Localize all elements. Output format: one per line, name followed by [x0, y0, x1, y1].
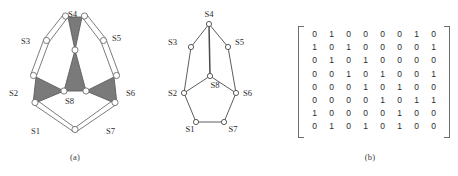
edge-b-s5-s6: [228, 47, 236, 93]
graph-b-svg: S4 S3 S5 S8 S2 S6 S1 S7: [150, 0, 290, 150]
label-b-s1: S1: [185, 124, 194, 134]
edge-b-s4-s8: [209, 24, 210, 76]
matrix-cell: 0: [323, 41, 340, 54]
matrix-cell: 0: [340, 81, 357, 94]
matrix-cell: 0: [374, 120, 391, 133]
matrix-cell: 0: [357, 94, 374, 107]
matrix-cell: 1: [425, 68, 442, 81]
edge-band-s4-s8-upper: [68, 17, 82, 50]
matrix-cell: 1: [374, 94, 391, 107]
label-a-s3: S3: [21, 36, 30, 46]
edge-b-s3-s4: [191, 24, 209, 47]
matrix-cell: 0: [391, 68, 408, 81]
node-a-s8-right: [83, 88, 89, 94]
label-b-s6: S6: [243, 88, 253, 98]
label-b-s3: S3: [168, 37, 177, 47]
graph-b-nodes: [181, 21, 238, 124]
matrix-cell: 0: [306, 54, 323, 67]
matrix-cell: 1: [340, 41, 357, 54]
matrix-cell: 0: [357, 68, 374, 81]
matrix-cell: 0: [357, 28, 374, 41]
matrix-row: 10000100: [306, 107, 442, 120]
label-b-s2: S2: [168, 88, 177, 98]
panel-c-adjacency-matrix: 0100001010100001010100000010100100010100…: [290, 0, 458, 176]
matrix-row: 01010100: [306, 120, 442, 133]
matrix-cell: 0: [340, 107, 357, 120]
matrix-cell: 1: [306, 107, 323, 120]
edge-band-s6-s8: [86, 77, 117, 104]
matrix-row: 00001011: [306, 94, 442, 107]
edge-b-s2-s3: [184, 47, 191, 93]
edge-b-s2-s8: [184, 76, 210, 93]
label-b-s8: S8: [210, 80, 219, 90]
node-a-s4-apex: [72, 47, 78, 53]
edge-b-s1-s2: [184, 93, 196, 122]
node-a-s5: [100, 37, 106, 43]
matrix-cell: 0: [323, 94, 340, 107]
matrix-cell: 0: [306, 68, 323, 81]
matrix-cell: 0: [391, 41, 408, 54]
matrix-cell: 1: [340, 68, 357, 81]
node-a-s3: [43, 37, 49, 43]
matrix-cell: 0: [306, 28, 323, 41]
node-b-s3: [188, 44, 193, 49]
matrix-cell: 0: [323, 107, 340, 120]
matrix-table: 0100001010100001010100000010100100010100…: [306, 28, 442, 134]
label-b-s7: S7: [228, 124, 238, 134]
matrix-cell: 1: [306, 41, 323, 54]
node-a-s1-s7-junction: [72, 126, 78, 132]
node-a-s2-bottom: [32, 99, 38, 105]
matrix-cell: 1: [408, 28, 425, 41]
matrix-cell: 1: [323, 54, 340, 67]
matrix-cell: 0: [425, 54, 442, 67]
label-a-s1: S1: [31, 126, 40, 136]
matrix-cell: 0: [408, 107, 425, 120]
matrix-left-bracket: [298, 26, 304, 138]
node-a-s4-right: [81, 13, 87, 19]
matrix-cell: 1: [391, 81, 408, 94]
matrix-cell: 0: [408, 54, 425, 67]
matrix-cell: 0: [340, 94, 357, 107]
matrix-cell: 0: [374, 107, 391, 120]
edge-band-s4-s8-lower: [64, 50, 86, 91]
node-b-s5: [225, 44, 230, 49]
matrix-right-bracket: [444, 26, 450, 138]
matrix-row: 00010100: [306, 81, 442, 94]
caption-a: (a): [0, 152, 150, 162]
matrix-cell: 1: [323, 120, 340, 133]
edge-band-s2-s3: [31, 39, 49, 77]
matrix-cell: 0: [340, 28, 357, 41]
matrix-cell: 0: [408, 68, 425, 81]
node-a-s8-left: [61, 88, 67, 94]
matrix-cell: 0: [408, 41, 425, 54]
matrix-cell: 0: [408, 120, 425, 133]
matrix-cell: 0: [306, 94, 323, 107]
label-a-s8: S8: [65, 96, 74, 106]
graph-a-edge-bands: [31, 15, 119, 132]
matrix-cell: 1: [391, 120, 408, 133]
matrix-cell: 0: [357, 107, 374, 120]
edge-band-s2-s8: [33, 77, 64, 104]
matrix-cell: 0: [391, 28, 408, 41]
label-a-s5: S5: [112, 33, 121, 43]
matrix-cell: 1: [357, 81, 374, 94]
matrix-row: 10100001: [306, 41, 442, 54]
matrix-cell: 1: [391, 107, 408, 120]
matrix-cell: 1: [408, 94, 425, 107]
label-b-s5: S5: [235, 37, 244, 47]
matrix-cell: 0: [357, 41, 374, 54]
matrix-cell: 0: [408, 81, 425, 94]
matrix-cell: 0: [391, 54, 408, 67]
edge-b-s4-s5: [209, 24, 228, 47]
node-b-s8: [207, 73, 212, 78]
label-a-s7: S7: [106, 126, 116, 136]
graph-a-svg: S4 S3 S5 S2 S6 S8 S1 S7: [0, 0, 150, 150]
matrix-cell: 0: [425, 120, 442, 133]
matrix-row: 00101001: [306, 68, 442, 81]
label-b-s4: S4: [204, 9, 214, 19]
node-a-s2-top: [30, 72, 36, 78]
matrix-cell: 0: [374, 41, 391, 54]
edge-b-s6-s7: [224, 93, 236, 122]
matrix-body: 0100001010100001010100000010100100010100…: [306, 28, 442, 134]
matrix-cell: 0: [340, 54, 357, 67]
